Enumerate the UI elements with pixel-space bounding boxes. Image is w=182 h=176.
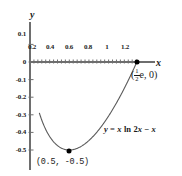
- x-axis-ticks: [34, 60, 136, 64]
- equation-x1: x: [117, 124, 121, 134]
- function-curve: [39, 62, 136, 150]
- equation-y: y: [104, 124, 108, 134]
- minimum-point-label: (0.5, -0.5): [36, 158, 89, 167]
- equation-annotation: y = x ln 2x − x: [104, 124, 156, 134]
- equation-ln: ln: [124, 124, 131, 134]
- x-intercept-suffix: e, 0): [140, 70, 158, 81]
- plot-canvas: [0, 0, 182, 176]
- x-intercept-label: ( 1 2 e, 0): [131, 68, 157, 83]
- minimum-point-marker: [67, 148, 72, 153]
- equation-equals: =: [110, 124, 115, 134]
- function-graph-figure: y x 0.2 0.4 0.6 0.8 1 1.2 0.1 0 -0.1 -0.…: [0, 0, 182, 176]
- y-axis-ticks: [29, 44, 34, 150]
- equation-minus: −: [144, 124, 149, 134]
- x-intercept-marker: [134, 60, 139, 65]
- equation-x2: x: [138, 124, 142, 134]
- equation-x3: x: [152, 124, 156, 134]
